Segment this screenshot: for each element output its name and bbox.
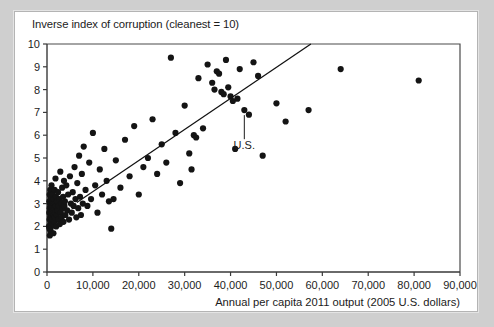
data-point [168,55,174,61]
data-point [241,107,247,113]
data-point [88,196,94,202]
data-point [200,125,206,131]
data-point [250,59,256,65]
data-point [117,185,123,191]
data-point [75,205,81,211]
data-point [92,182,98,188]
data-point [246,112,252,118]
data-point [108,226,114,232]
data-point [225,84,231,90]
data-point [188,166,194,172]
data-point [67,173,73,179]
scatter-plot: 012345678910010,00020,00030,00040,00050,… [15,12,477,311]
data-point [182,102,188,108]
x-tick-label: 30,000 [168,279,202,291]
data-point [163,159,169,165]
data-point [221,91,227,97]
data-point [237,66,243,72]
data-point [273,100,279,106]
x-tick-label: 20,000 [122,279,156,291]
data-point [283,118,289,124]
data-point [136,191,142,197]
data-point [140,164,146,170]
figure-root: Inverse index of corruption (cleanest = … [0,0,494,327]
data-point [69,210,75,216]
data-point [60,219,66,225]
y-tick-label: 7 [34,106,40,118]
y-tick-label: 1 [34,243,40,255]
data-point [62,198,68,204]
trend-line [77,44,311,202]
data-point [74,180,80,186]
data-point [99,191,105,197]
x-tick-label: 60,000 [306,279,340,291]
data-point [101,146,107,152]
data-point [416,77,422,83]
x-tick-label: 80,000 [397,279,431,291]
y-tick-label: 4 [34,175,40,187]
data-point [234,96,240,102]
data-point [50,230,56,236]
data-point [113,157,119,163]
x-tick-label: 50,000 [260,279,294,291]
y-tick-label: 6 [34,129,40,141]
data-point [209,80,215,86]
data-point [131,123,137,129]
y-tick-label: 5 [34,152,40,164]
data-point [211,87,217,93]
data-point [223,57,229,63]
y-tick-label: 3 [34,198,40,210]
plot-frame [47,44,460,272]
data-point [84,203,90,209]
data-point [260,153,266,159]
data-point [57,169,63,175]
data-point [66,216,72,222]
data-point [94,210,100,216]
x-tick-label: 90,000 [443,279,477,291]
data-point [78,212,84,218]
y-tick-label: 0 [34,266,40,278]
x-axis-title: Annual per capita 2011 output (2005 U.S.… [215,296,460,308]
data-point [86,159,92,165]
data-point [127,173,133,179]
data-point [193,134,199,140]
data-point [154,171,160,177]
data-point [216,71,222,77]
x-tick-label: 70,000 [351,279,385,291]
x-tick-label: 0 [44,279,50,291]
data-point [205,61,211,67]
data-point [110,196,116,202]
y-tick-label: 10 [28,38,40,50]
data-point [79,171,85,177]
plot-axes [47,44,460,272]
data-point [338,66,344,72]
data-point [82,187,88,193]
data-point [90,130,96,136]
data-point [149,116,155,122]
data-point [122,137,128,143]
data-point [195,75,201,81]
x-tick-label: 40,000 [214,279,248,291]
data-point [81,144,87,150]
data-point [63,182,69,188]
data-point [71,164,77,170]
figure-card: Inverse index of corruption (cleanest = … [14,11,478,312]
y-tick-label: 2 [34,220,40,232]
x-tick-label: 10,000 [76,279,110,291]
data-point [52,175,58,181]
annotation-label-us: U.S. [234,139,255,151]
data-point [177,180,183,186]
data-point [186,150,192,156]
data-point [70,189,76,195]
data-point [305,107,311,113]
y-tick-label: 9 [34,61,40,73]
y-tick-label: 8 [34,84,40,96]
data-point [76,153,82,159]
data-point [97,166,103,172]
